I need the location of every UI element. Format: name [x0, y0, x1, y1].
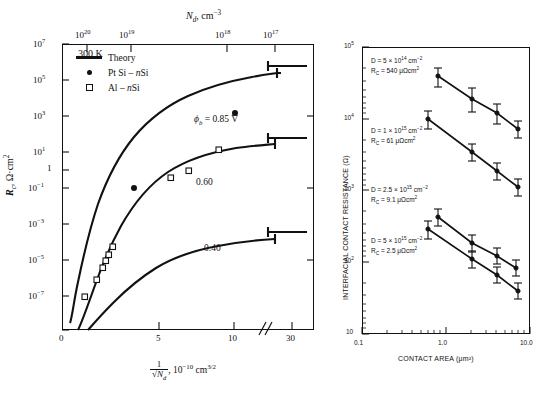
- curve-phi-040: [88, 239, 275, 330]
- left-y-tick-label-4: 101: [33, 146, 45, 157]
- curve-phi-060: [78, 144, 275, 330]
- right-y-tick-label-3: 103: [344, 185, 354, 193]
- legend-item-theory: Theory: [74, 50, 148, 65]
- right-y-tick-label-1: 105: [344, 42, 354, 50]
- left-y-tick-label-5: 1: [47, 164, 52, 173]
- left-top-tick-label-2: 1019: [119, 29, 134, 40]
- left-x-tick-label-2: 5: [156, 334, 161, 343]
- left-x-tick-label-1: 0: [59, 334, 64, 343]
- left-plot-legend: Theory Pt Si – nSi Al – nSi: [74, 50, 148, 95]
- right-x-tick-label-3: 10.0: [520, 340, 533, 347]
- open-square-marker-icon: [74, 84, 104, 91]
- curve-phi-085: [70, 73, 277, 323]
- legend-item-ptsi: Pt Si – nSi: [74, 65, 148, 80]
- left-y-tick-label-9: 10−7: [28, 290, 44, 301]
- series-d5e15: [424, 221, 522, 299]
- filled-circle-marker-icon: [74, 70, 104, 75]
- line-marker-icon: [74, 56, 104, 58]
- right-x-tick-label-1: 0.1: [354, 340, 363, 347]
- left-y-tick-label-2: 105: [33, 74, 45, 85]
- legend-label-alsi: Al – nSi: [104, 83, 140, 93]
- data-points-alsi: [82, 147, 222, 300]
- left-right-ticks: [307, 116, 314, 260]
- left-y-tick-label-1: 107: [33, 38, 45, 49]
- right-y-tick-label-5: 10: [346, 329, 353, 336]
- left-plot-panel: Nd, cm−3 Rc, Ω·cm2 1√Nd, 10−10 cm3/2: [0, 0, 340, 396]
- left-top-tick-label-3: 1018: [215, 29, 230, 40]
- series-d5e14: [434, 68, 522, 138]
- curve-label-085: ϕb = 0.85 V: [194, 115, 238, 127]
- curve-label-040: 0.40: [204, 244, 221, 254]
- figure-root: Nd, cm−3 Rc, Ω·cm2 1√Nd, 10−10 cm3/2: [0, 0, 548, 396]
- right-y-tick-label-4: 102: [344, 257, 354, 265]
- legend-label-theory: Theory: [104, 53, 135, 63]
- legend-label-ptsi: Pt Si – nSi: [104, 68, 148, 78]
- annotation-d1e15: D = 1 × 1015 cm−2 RC = 61 μΩcm2: [371, 126, 422, 148]
- annotation-d5e15: D = 5 × 1015 cm−2 RC = 2.5 μΩcm2: [371, 236, 422, 258]
- right-y-minor-ticks: [362, 68, 366, 328]
- left-axis-break-icon: [259, 322, 272, 335]
- right-y-tick-label-2: 104: [344, 114, 354, 122]
- annotation-d2p5e15: D = 2.5 × 1015 cm−2 RC = 9.1 μΩcm2: [371, 185, 428, 207]
- legend-item-alsi: Al – nSi: [74, 80, 148, 95]
- left-x-tick-label-3: 10: [228, 334, 237, 343]
- left-y-tick-label-6: 10−1: [28, 182, 44, 193]
- left-top-tick-label-4: 1017: [263, 29, 278, 40]
- right-plot-panel: INTERFACIAL CONTACT RESISTANCE (Ω) CONTA…: [340, 0, 548, 396]
- curve-label-060: 0.60: [196, 178, 213, 188]
- right-x-tick-label-2: 1.0: [438, 340, 447, 347]
- right-x-minor-ticks: [387, 330, 524, 334]
- curve-085-tail-segment: [268, 61, 307, 71]
- left-y-ticks: [62, 44, 69, 330]
- left-x-tick-label-4: 30: [286, 334, 295, 343]
- left-y-tick-label-7: 10−3: [28, 218, 44, 229]
- left-y-tick-label-8: 10−5: [28, 254, 44, 265]
- annotation-d5e14: D = 5 × 1014 cm−2 RC = 540 μΩcm2: [371, 56, 422, 78]
- left-bottom-ticks: [159, 322, 292, 330]
- curve-040-tail-segment: [268, 227, 307, 237]
- left-y-tick-label-3: 103: [33, 110, 45, 121]
- curve-060-tail-segment: [268, 133, 307, 143]
- left-top-tick-label-1: 1020: [75, 29, 90, 40]
- series-d1e15: [424, 111, 522, 196]
